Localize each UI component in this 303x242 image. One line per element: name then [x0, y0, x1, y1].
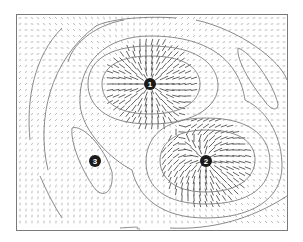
- marker-2: 2: [200, 155, 212, 167]
- marker-1: 1: [144, 78, 156, 90]
- marker-label: 2: [204, 157, 209, 166]
- vector-field-diagram: 123: [0, 0, 303, 242]
- marker-label: 3: [93, 157, 98, 166]
- marker-label: 1: [148, 80, 153, 89]
- marker-3: 3: [89, 155, 101, 167]
